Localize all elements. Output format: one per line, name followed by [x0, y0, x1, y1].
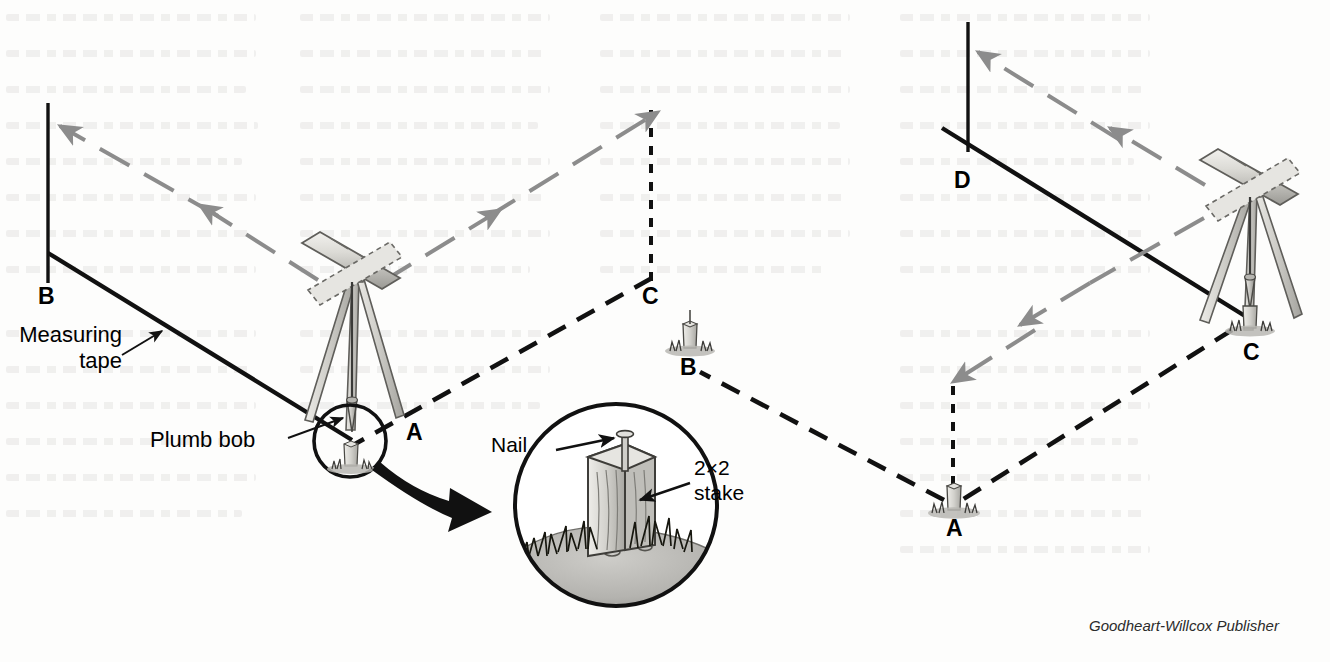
point-label-b-right: B [680, 355, 697, 380]
point-label-a-left: A [406, 420, 423, 445]
transit-instrument-right [1200, 149, 1302, 337]
stake-label-line1: 2×2 [694, 456, 730, 480]
publisher-credit: Goodheart-Willcox Publisher [1089, 617, 1279, 634]
transit-instrument-left [302, 232, 404, 432]
point-label-d-right: D [954, 168, 971, 193]
point-label-a-right: A [946, 516, 963, 541]
sightline-c-to-a [953, 218, 1204, 382]
sightline-a-to-b [60, 126, 318, 280]
figure-page: B C A Measuring tape Plumb bob Nail 2×2 … [0, 0, 1330, 662]
stake-at-a-small [327, 441, 375, 474]
plumb-bob-label: Plumb bob [150, 428, 255, 452]
sightline-c-to-d [978, 52, 1205, 185]
right-diagram [665, 22, 1302, 519]
inset-stake-detail [500, 404, 740, 615]
measuring-tape-label-line2: tape [0, 348, 122, 374]
stake-label-line2: stake [694, 481, 744, 505]
dashed-line-c-to-a-right [962, 330, 1232, 500]
stake-at-b-right [665, 310, 715, 357]
point-label-c-left: C [642, 284, 659, 309]
stake-at-a-right [928, 483, 980, 519]
surveying-diagram [0, 0, 1330, 662]
leader-measuring-tape [122, 331, 162, 355]
callout-arrow-to-inset [372, 462, 492, 532]
point-label-c-right: C [1243, 340, 1260, 365]
measuring-tape-label-line1: Measuring [0, 322, 122, 348]
nail-label: Nail [491, 434, 527, 457]
sightline-a-to-c [382, 112, 658, 282]
point-label-b-left: B [38, 284, 55, 309]
